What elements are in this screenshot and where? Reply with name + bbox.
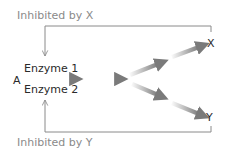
arrow-branch-y-1 xyxy=(132,84,158,95)
arrow-branch-x-2 xyxy=(172,47,199,57)
product-x-label: X xyxy=(207,38,215,49)
inhibited-by-x-label: Inhibited by X xyxy=(17,10,93,21)
arrow-branch-x-1 xyxy=(130,64,158,75)
product-y-label: Y xyxy=(206,112,213,123)
feedback-line-y xyxy=(45,100,211,132)
pathway-diagram xyxy=(0,0,227,157)
inhibited-by-y-label: Inhibited by Y xyxy=(17,137,93,148)
enzyme-1-label: Enzyme 1 xyxy=(24,63,78,74)
arrow-branch-y-2 xyxy=(172,103,199,114)
substrate-a-label: A xyxy=(13,75,21,86)
enzyme-2-label: Enzyme 2 xyxy=(24,84,78,95)
